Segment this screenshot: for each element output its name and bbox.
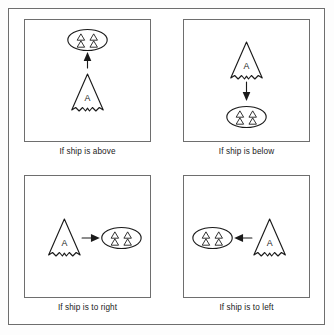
scene-ship-below: A	[184, 20, 309, 143]
svg-text:A: A	[267, 238, 273, 248]
direction-arrow-left	[234, 234, 252, 242]
ship-cone-symbol: A	[231, 42, 262, 79]
direction-arrow-up	[84, 52, 92, 68]
panel-border: A	[183, 19, 310, 142]
panel-border: A	[24, 19, 151, 142]
panel-caption-ship-to-left: If ship is to left	[183, 302, 310, 313]
fleet-ellipse-symbol	[102, 228, 141, 249]
panel-caption-ship-to-right: If ship is to right	[24, 302, 151, 313]
panel-caption-ship-below: If ship is below	[183, 146, 310, 157]
fleet-ellipse-symbol	[68, 30, 107, 51]
fleet-ellipse-symbol	[227, 107, 266, 128]
ship-cone-symbol: A	[49, 219, 80, 256]
direction-arrow-down	[243, 82, 251, 101]
svg-text:A: A	[244, 61, 250, 71]
scene-ship-to-right: A	[25, 176, 150, 299]
ship-cone-symbol: A	[254, 219, 285, 256]
figure-root: A If ship is above A	[0, 0, 334, 335]
ship-cone-symbol: A	[72, 74, 103, 111]
scene-ship-to-left: A	[184, 176, 309, 299]
panel-border: A	[183, 175, 310, 298]
direction-arrow-right	[82, 234, 100, 242]
scene-ship-above: A	[25, 20, 150, 143]
svg-text:A: A	[85, 93, 91, 103]
panel-grid: A If ship is above A	[8, 8, 325, 325]
panel-caption-ship-above: If ship is above	[24, 146, 151, 157]
fleet-ellipse-symbol	[193, 228, 232, 249]
svg-text:A: A	[61, 238, 67, 248]
panel-border: A	[24, 175, 151, 298]
